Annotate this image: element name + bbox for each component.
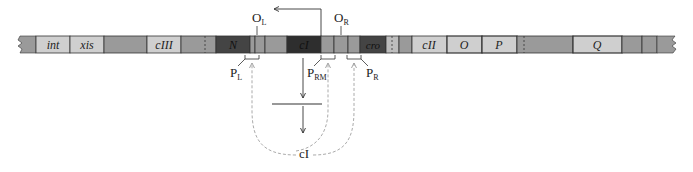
PL-main: P	[230, 65, 237, 80]
PL-sub: L	[237, 73, 242, 82]
gene-label-P: P	[494, 38, 503, 52]
feedback-arrow-to-PL	[252, 63, 296, 155]
cI-repressor-label: cI	[299, 146, 309, 161]
svg-text:OL: OL	[252, 10, 266, 27]
svg-text:PL: PL	[230, 65, 242, 82]
OR-region-a	[321, 36, 334, 53]
OL-main: O	[252, 10, 261, 25]
transcription-arrow-left	[274, 9, 321, 36]
OR-sub: R	[343, 18, 349, 27]
PRM-main: P	[307, 65, 314, 80]
dna-bar	[18, 36, 676, 53]
gene-label-Q: Q	[593, 38, 602, 52]
promoter-PRM: PRM	[307, 55, 335, 82]
PR-sub: R	[373, 73, 379, 82]
operator-OL: OL	[252, 10, 266, 35]
svg-text:OR: OR	[334, 10, 349, 27]
right-torn-edge	[657, 36, 676, 53]
promoter-PL: PL	[230, 55, 259, 82]
spacer-8	[642, 36, 657, 53]
PRM-sub: RM	[314, 73, 326, 82]
svg-text:PRM: PRM	[307, 65, 327, 82]
gene-label-cII: cII	[422, 38, 436, 52]
left-torn-edge	[18, 36, 36, 53]
OR-region-c	[348, 36, 360, 53]
spacer-2	[181, 36, 216, 53]
gene-label-int: int	[47, 38, 60, 52]
gene-label-O: O	[460, 38, 469, 52]
gene-label-xis: xis	[79, 38, 94, 52]
operator-OR: OR	[334, 10, 349, 35]
svg-text:PR: PR	[366, 65, 379, 82]
OL-region-b	[255, 36, 265, 53]
gene-label-cI: cI	[299, 38, 309, 52]
OL-sub: L	[261, 18, 266, 27]
spacer-6	[517, 36, 573, 53]
cI-expression-pathway	[272, 58, 322, 133]
promoter-PR: PR	[347, 55, 379, 82]
gene-label-cro: cro	[366, 39, 381, 51]
OL-region-a	[250, 36, 255, 53]
OR-main: O	[334, 10, 343, 25]
PR-main: P	[366, 65, 373, 80]
OR-region-b	[334, 36, 348, 53]
lambda-phage-regulatory-map: int xis cIII N cI cro cII O P Q OL OR PL…	[0, 0, 693, 172]
spacer-3	[265, 36, 287, 53]
spacer-5	[399, 36, 412, 53]
spacer-7	[622, 36, 642, 53]
gene-label-N: N	[228, 38, 238, 52]
spacer-4	[386, 36, 399, 53]
spacer-1	[104, 36, 147, 53]
gene-label-cIII: cIII	[155, 38, 173, 52]
